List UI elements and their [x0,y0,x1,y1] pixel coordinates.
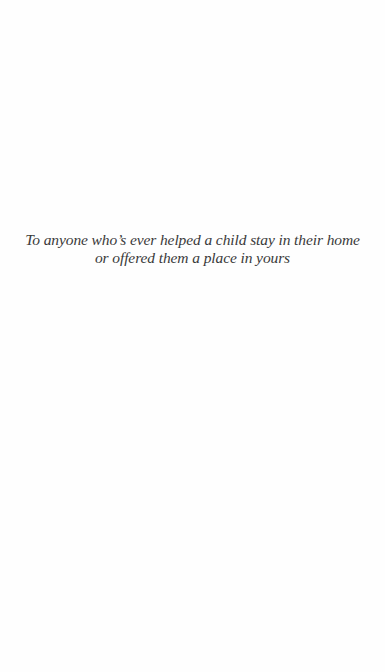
dedication-text: To anyone who’s ever helped a child stay… [0,231,385,267]
dedication-line-1: To anyone who’s ever helped a child stay… [0,231,385,249]
book-page: To anyone who’s ever helped a child stay… [0,0,385,672]
dedication-line-2: or offered them a place in yours [0,249,385,267]
